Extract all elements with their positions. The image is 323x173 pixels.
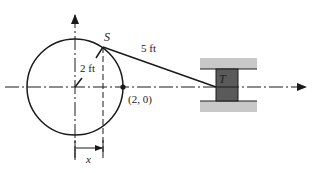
label-s: S <box>104 30 110 44</box>
slider-crank-diagram: S 5 ft 2 ft (2, 0) T x <box>0 0 323 173</box>
point-2-0-marker <box>120 84 125 89</box>
bottom-rail <box>200 101 257 112</box>
label-point: (2, 0) <box>128 93 152 106</box>
connecting-rod <box>103 47 216 87</box>
label-rod-length: 5 ft <box>141 42 156 54</box>
top-rail <box>200 58 257 69</box>
label-x: x <box>85 153 91 165</box>
label-crank-length: 2 ft <box>80 62 95 74</box>
